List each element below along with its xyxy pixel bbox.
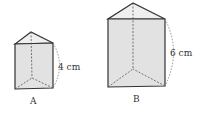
prism-a-front-face xyxy=(15,43,53,89)
prism-b-height-label: 6 cm xyxy=(170,48,193,58)
prism-b-label: B xyxy=(133,94,140,104)
prism-a-label: A xyxy=(29,96,37,106)
prism-b-front-face xyxy=(108,19,165,87)
prism-b: 6 cm B xyxy=(108,3,193,104)
prism-b-top-face xyxy=(108,3,165,19)
prism-a: 4 cm A xyxy=(15,32,81,106)
prism-a-top-face xyxy=(15,32,53,44)
prism-diagram: 4 cm A 6 cm B xyxy=(0,0,203,113)
prism-a-height-label: 4 cm xyxy=(58,62,81,72)
